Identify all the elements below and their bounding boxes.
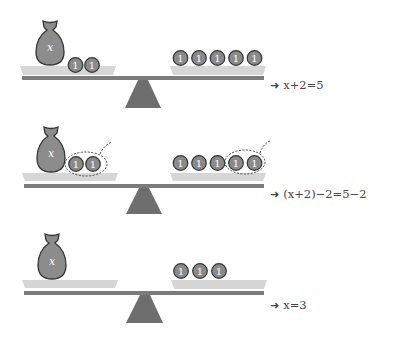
svg-text:1: 1 <box>233 158 239 169</box>
beam <box>24 184 264 188</box>
money-bag-icon: x <box>36 21 64 65</box>
svg-text:1: 1 <box>72 60 78 71</box>
coin-icon: 1 <box>86 157 101 172</box>
beam <box>24 291 264 295</box>
scale-1-graphic: x 1 1 1 1 1 1 1 <box>0 0 400 115</box>
right-pan <box>170 173 266 181</box>
equation-label: ➜x+2=5 <box>270 78 324 92</box>
coin-icon: 1 <box>173 156 188 171</box>
fulcrum-icon <box>125 80 161 108</box>
equation-text: (x+2)−2=5−2 <box>283 187 366 201</box>
right-pan <box>170 66 266 75</box>
removal-arrow-left <box>100 142 112 154</box>
right-pan <box>171 280 267 289</box>
svg-text:1: 1 <box>178 266 184 277</box>
svg-text:1: 1 <box>216 266 222 277</box>
arrow-right-icon: ➜ <box>270 188 279 201</box>
fulcrum-icon <box>126 295 163 323</box>
scale-3: x 1 1 1 ➜x=3 <box>0 222 400 344</box>
bag-variable-label: x <box>49 255 56 268</box>
money-bag-icon: x <box>38 234 66 279</box>
arrow-right-icon: ➜ <box>270 299 279 312</box>
coin-icon: 1 <box>229 156 244 171</box>
svg-text:1: 1 <box>214 158 220 169</box>
arrow-right-icon: ➜ <box>270 79 279 92</box>
svg-text:1: 1 <box>214 53 220 64</box>
equation-label: ➜x=3 <box>270 298 307 312</box>
scale-3-graphic: x 1 1 1 <box>0 222 400 344</box>
equation-label: ➜(x+2)−2=5−2 <box>270 187 367 201</box>
beam <box>22 76 264 80</box>
balance-scale-diagram: x 1 1 1 1 1 1 1 ➜x+2=5 x 1 1 <box>0 0 400 344</box>
equation-text: x=3 <box>283 298 306 312</box>
coin-icon: 1 <box>173 51 188 66</box>
svg-text:1: 1 <box>177 53 183 64</box>
svg-text:1: 1 <box>233 53 239 64</box>
equation-text: x+2=5 <box>283 78 323 92</box>
left-pan <box>22 173 118 181</box>
left-pan <box>22 280 118 288</box>
coin-icon: 1 <box>192 156 207 171</box>
coin-icon: 1 <box>229 51 244 66</box>
svg-text:1: 1 <box>196 158 202 169</box>
svg-text:1: 1 <box>73 159 79 170</box>
coin-icon: 1 <box>210 51 225 66</box>
coin-icon: 1 <box>85 58 100 73</box>
coin-icon: 1 <box>247 51 262 66</box>
svg-text:1: 1 <box>251 158 257 169</box>
coin-icon: 1 <box>212 264 227 279</box>
bag-variable-label: x <box>48 147 55 160</box>
fulcrum-icon <box>126 188 162 214</box>
coin-icon: 1 <box>210 156 225 171</box>
svg-text:1: 1 <box>177 158 183 169</box>
money-bag-icon: x <box>37 127 65 172</box>
coin-icon: 1 <box>193 264 208 279</box>
coin-icon: 1 <box>174 264 189 279</box>
bag-variable-label: x <box>47 41 54 54</box>
removal-arrow-right <box>260 141 270 153</box>
scale-2: x 1 1 1 1 1 1 1 ➜(x+2)−2=5−2 <box>0 108 400 220</box>
svg-text:1: 1 <box>90 159 96 170</box>
coin-icon: 1 <box>68 58 83 73</box>
svg-text:1: 1 <box>196 53 202 64</box>
coin-icon: 1 <box>192 51 207 66</box>
scale-2-graphic: x 1 1 1 1 1 1 1 <box>0 108 400 220</box>
svg-text:1: 1 <box>251 53 257 64</box>
scale-1: x 1 1 1 1 1 1 1 ➜x+2=5 <box>0 0 400 115</box>
svg-text:1: 1 <box>89 60 95 71</box>
coin-icon: 1 <box>247 156 262 171</box>
svg-text:1: 1 <box>197 266 203 277</box>
coin-icon: 1 <box>69 157 84 172</box>
